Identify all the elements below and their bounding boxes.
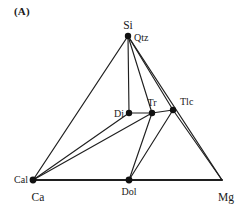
node-dot-qtz xyxy=(125,33,131,39)
tie-line-cal-to-tr xyxy=(33,113,152,180)
node-label-di: Di xyxy=(114,108,124,119)
vertex-label-mg: Mg xyxy=(218,191,234,204)
tie-line-dol-to-tr xyxy=(129,113,152,180)
node-dot-cal xyxy=(30,177,37,184)
node-label-tlc: Tlc xyxy=(180,96,194,107)
vertex-label-si: Si xyxy=(123,19,133,31)
tie-line-qtz-to-di xyxy=(128,36,129,113)
node-dot-tlc xyxy=(170,107,176,113)
vertex-label-ca: Ca xyxy=(32,191,45,203)
node-label-dol: Dol xyxy=(122,186,137,197)
node-dot-tr xyxy=(149,110,155,116)
phase-node-labels: Qtz Di Tr Tlc Cal Dol xyxy=(14,32,194,197)
diagram-outline-edges xyxy=(33,36,222,180)
ternary-diagram-canvas: Qtz Di Tr Tlc Cal Dol Si Ca Mg xyxy=(0,0,246,207)
node-label-qtz: Qtz xyxy=(134,32,149,43)
ternary-diagram-figure: (A) Qtz Di xyxy=(0,0,246,207)
node-dot-di xyxy=(126,110,132,116)
tie-line-cal-to-di xyxy=(33,113,129,180)
tie-line-tlc-to-mg xyxy=(173,110,222,180)
apex-vertex-labels: Si Ca Mg xyxy=(32,19,235,204)
phase-node-dots xyxy=(30,33,177,184)
node-label-tr: Tr xyxy=(147,97,157,108)
node-dot-dol xyxy=(126,177,133,184)
tie-lines-group xyxy=(33,36,222,180)
tie-line-dol-to-tlc xyxy=(129,110,173,180)
node-label-cal: Cal xyxy=(14,174,28,185)
